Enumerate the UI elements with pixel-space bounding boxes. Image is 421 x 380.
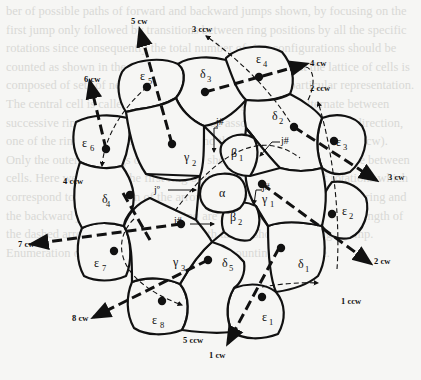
svg-text:ε: ε <box>342 204 347 218</box>
svg-text:β: β <box>231 146 237 160</box>
svg-text:1: 1 <box>239 153 243 163</box>
label-6cw: 6 cw <box>84 74 101 84</box>
svg-text:δ: δ <box>200 67 206 81</box>
svg-text:3: 3 <box>181 263 185 273</box>
svg-text:δ: δ <box>222 256 228 270</box>
svg-text:5: 5 <box>229 263 233 273</box>
label-alpha: α <box>219 186 226 200</box>
svg-text:7: 7 <box>102 263 106 273</box>
junction-label-4: j# <box>173 215 182 226</box>
svg-text:2: 2 <box>238 217 242 227</box>
junction-label-1: j# <box>215 116 224 127</box>
svg-text:2: 2 <box>279 116 283 126</box>
svg-text:ε: ε <box>94 256 99 270</box>
svg-text:2: 2 <box>349 211 353 221</box>
svg-text:δ: δ <box>298 257 304 271</box>
svg-text:γ: γ <box>172 255 179 269</box>
svg-text:1: 1 <box>270 199 274 209</box>
label-4ccw: 4 ccw <box>63 176 84 186</box>
cell-delta1 <box>268 222 325 292</box>
label-8cw: 8 cw <box>72 313 89 323</box>
label-2ccw: 2 ccw <box>310 83 331 93</box>
svg-text:ε: ε <box>82 136 87 150</box>
figure: ber of possible paths of forward and bac… <box>0 0 421 380</box>
svg-text:γ: γ <box>183 150 190 164</box>
svg-text:γ: γ <box>261 192 268 206</box>
label-5cw: 5 cw <box>131 16 148 26</box>
junction-label-3: j# <box>261 181 270 192</box>
label-5ccw: 5 ccw <box>183 335 204 345</box>
cell-eps8 <box>128 278 188 334</box>
label-2cw: 2 cw <box>374 256 391 266</box>
svg-text:3: 3 <box>343 142 347 152</box>
svg-text:ε: ε <box>140 69 145 83</box>
label-1cw: 1 cw <box>209 350 226 360</box>
svg-text:2: 2 <box>192 158 196 168</box>
svg-text:ε: ε <box>256 52 261 66</box>
cell-lattice-diagram: α β1 β2 γ1 γ2 γ3 δ1 δ2 δ3 δ4 δ5 ε1 ε2 ε3… <box>0 0 421 380</box>
junction-label-origin: jº <box>153 184 160 195</box>
svg-text:3: 3 <box>207 74 211 84</box>
svg-text:β: β <box>230 210 236 224</box>
svg-text:δ: δ <box>272 109 278 123</box>
svg-text:ε: ε <box>152 313 157 327</box>
svg-text:6: 6 <box>90 143 94 153</box>
label-1ccw: 1 ccw <box>341 296 362 306</box>
svg-text:8: 8 <box>160 320 164 330</box>
label-3cw: 3 cw <box>388 172 405 182</box>
label-3ccw: 3 ccw <box>192 24 213 34</box>
label-7cw: 7 cw <box>18 239 35 249</box>
svg-text:1: 1 <box>269 317 273 327</box>
junction-label-2: j# <box>280 135 289 146</box>
label-4cw: 4 cw <box>310 58 327 68</box>
svg-text:1: 1 <box>305 264 309 274</box>
svg-text:ε: ε <box>262 310 267 324</box>
cell-eps3 <box>318 115 366 174</box>
